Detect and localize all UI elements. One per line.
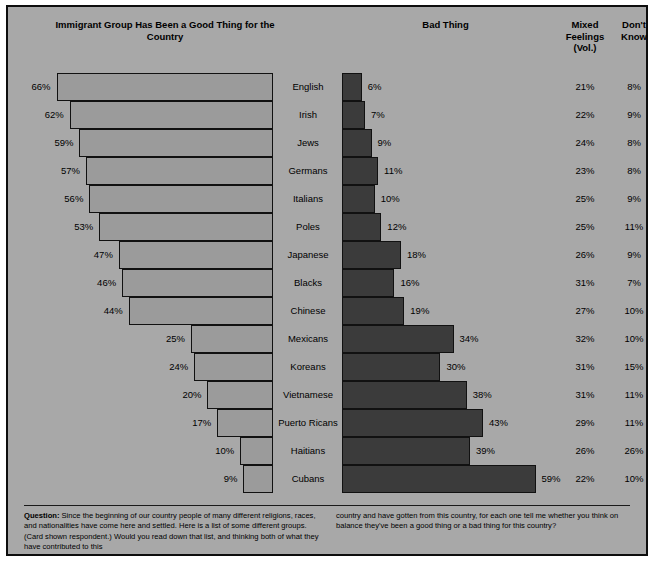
header-mixed-feelings: Mixed Feelings (Vol.): [557, 19, 613, 54]
good-thing-bar-wrapper: 20%: [8, 381, 273, 409]
good-thing-bar-wrapper: 66%: [8, 73, 273, 101]
footnote: Question: Since the beginning of our cou…: [24, 511, 636, 553]
good-thing-bar-wrapper: 9%: [8, 465, 273, 493]
good-thing-bar-wrapper: 53%: [8, 213, 273, 241]
bad-thing-value: 12%: [387, 221, 406, 232]
good-thing-bar-wrapper: 10%: [8, 437, 273, 465]
chart-panel: Immigrant Group Has Been a Good Thing fo…: [6, 5, 648, 556]
group-label: Koreans: [274, 353, 342, 381]
bad-thing-bar: [342, 101, 365, 129]
footnote-divider: [24, 505, 630, 506]
bad-thing-value: 18%: [407, 249, 426, 260]
bad-thing-bar: [342, 353, 440, 381]
good-thing-bar-wrapper: 44%: [8, 297, 273, 325]
bad-thing-value: 7%: [371, 109, 385, 120]
mixed-feelings-value: 31%: [557, 389, 613, 400]
good-thing-bar: [240, 437, 273, 465]
group-label: Japanese: [274, 241, 342, 269]
mixed-feelings-value: 23%: [557, 165, 613, 176]
good-thing-bar: [99, 213, 273, 241]
good-thing-bar: [122, 269, 273, 297]
mixed-feelings-value: 31%: [557, 277, 613, 288]
good-thing-bar: [191, 325, 273, 353]
group-label: Blacks: [274, 269, 342, 297]
mixed-feelings-value: 29%: [557, 417, 613, 428]
dont-know-value: 10%: [611, 473, 656, 484]
mixed-feelings-value: 32%: [557, 333, 613, 344]
chart-row: 57%Germans11%23%8%: [8, 157, 646, 185]
good-thing-bar: [243, 465, 273, 493]
group-label: Haitians: [274, 437, 342, 465]
bad-thing-bar: [342, 213, 381, 241]
footnote-text-1: Since the beginning of our country peopl…: [24, 511, 319, 551]
dont-know-value: 8%: [611, 137, 656, 148]
group-label: Italians: [274, 185, 342, 213]
good-thing-bar: [79, 129, 273, 157]
bad-thing-bar: [342, 297, 404, 325]
chart-row: 46%Blacks16%31%7%: [8, 269, 646, 297]
dont-know-value: 9%: [611, 249, 656, 260]
good-thing-bar-wrapper: 57%: [8, 157, 273, 185]
group-label: Puerto Ricans: [274, 409, 342, 437]
mixed-feelings-value: 31%: [557, 361, 613, 372]
good-thing-bar-wrapper: 56%: [8, 185, 273, 213]
bad-thing-bar: [342, 241, 401, 269]
footnote-column-1: Question: Since the beginning of our cou…: [24, 511, 324, 553]
dont-know-value: 15%: [611, 361, 656, 372]
good-thing-value: 9%: [224, 473, 238, 484]
bad-thing-value: 11%: [384, 165, 402, 176]
dont-know-value: 9%: [611, 109, 656, 120]
mixed-feelings-value: 24%: [557, 137, 613, 148]
group-label: Jews: [274, 129, 342, 157]
good-thing-bar: [119, 241, 273, 269]
footnote-text-2: country and have gotten from this countr…: [336, 511, 618, 530]
dont-know-value: 11%: [611, 417, 656, 428]
good-thing-bar: [129, 297, 273, 325]
good-thing-bar: [207, 381, 273, 409]
group-label: Irish: [274, 101, 342, 129]
header-bad-thing: Bad Thing: [338, 19, 553, 31]
dont-know-value: 10%: [611, 305, 656, 316]
mixed-feelings-value: 26%: [557, 445, 613, 456]
bad-thing-bar: [342, 465, 536, 493]
good-thing-value: 57%: [61, 165, 80, 176]
chart-row: 44%Chinese19%27%10%: [8, 297, 646, 325]
header-good-thing: Immigrant Group Has Been a Good Thing fo…: [52, 19, 278, 42]
good-thing-bar-wrapper: 59%: [8, 129, 273, 157]
good-thing-bar-wrapper: 46%: [8, 269, 273, 297]
footnote-column-2: country and have gotten from this countr…: [336, 511, 636, 553]
bad-thing-value: 38%: [473, 389, 492, 400]
good-thing-value: 25%: [166, 333, 185, 344]
bad-thing-value: 16%: [400, 277, 419, 288]
good-thing-value: 56%: [64, 193, 83, 204]
mixed-feelings-value: 25%: [557, 193, 613, 204]
chart-row: 53%Poles12%25%11%: [8, 213, 646, 241]
bad-thing-value: 43%: [489, 417, 508, 428]
good-thing-value: 20%: [182, 389, 201, 400]
dont-know-value: 7%: [611, 277, 656, 288]
chart-row: 56%Italians10%25%9%: [8, 185, 646, 213]
good-thing-value: 62%: [45, 109, 64, 120]
good-thing-bar-wrapper: 62%: [8, 101, 273, 129]
good-thing-bar-wrapper: 25%: [8, 325, 273, 353]
good-thing-value: 53%: [74, 221, 93, 232]
mixed-feelings-value: 27%: [557, 305, 613, 316]
chart-row: 24%Koreans30%31%15%: [8, 353, 646, 381]
chart-row: 10%Haitians39%26%26%: [8, 437, 646, 465]
mixed-feelings-value: 22%: [557, 109, 613, 120]
group-label: Poles: [274, 213, 342, 241]
chart-row: 62%Irish7%22%9%: [8, 101, 646, 129]
bad-thing-value: 34%: [460, 333, 479, 344]
chart-row: 66%English6%21%8%: [8, 73, 646, 101]
group-label: Germans: [274, 157, 342, 185]
bad-thing-value: 6%: [368, 81, 382, 92]
good-thing-bar: [70, 101, 273, 129]
bad-thing-value: 39%: [476, 445, 495, 456]
good-thing-bar: [89, 185, 273, 213]
bad-thing-bar: [342, 409, 483, 437]
bad-thing-bar: [342, 269, 394, 297]
chart-row: 59%Jews9%24%8%: [8, 129, 646, 157]
bad-thing-bar: [342, 185, 375, 213]
group-label: Chinese: [274, 297, 342, 325]
dont-know-value: 26%: [611, 445, 656, 456]
